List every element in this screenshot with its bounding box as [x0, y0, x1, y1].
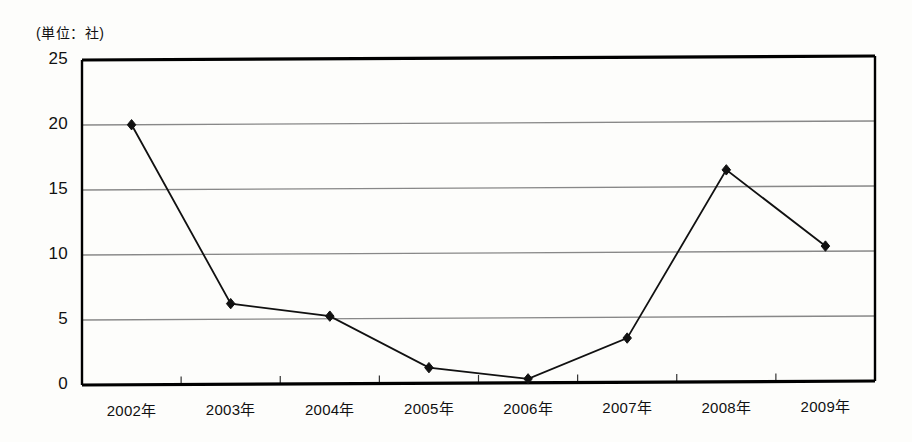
- gridline-5: [82, 316, 875, 320]
- gridline-15: [82, 186, 875, 190]
- x-tick-label: 2005年: [379, 397, 479, 418]
- data-point-marker: [326, 311, 335, 321]
- gridlines-group: [82, 121, 875, 320]
- frame-bottom: [82, 381, 875, 385]
- x-tick-label: 2009年: [775, 395, 875, 416]
- x-tick-label: 2007年: [577, 396, 677, 417]
- plot-frame: [82, 56, 875, 385]
- x-tick-label: 2006年: [478, 397, 578, 418]
- data-point-marker: [425, 362, 434, 372]
- y-tick-label: 0: [26, 374, 68, 394]
- y-tick-label: 15: [26, 179, 68, 199]
- y-tick-label: 25: [26, 49, 68, 69]
- x-tick-label: 2002年: [82, 399, 182, 420]
- line-chart-plot-area: [0, 0, 912, 442]
- y-tick-label: 20: [26, 114, 68, 134]
- y-tick-label: 5: [26, 309, 68, 329]
- gridline-20: [82, 121, 875, 125]
- chart-figure: (単位：社) 0510152025 2002年2003年2004年2005年20…: [0, 0, 912, 442]
- x-tick-label: 2004年: [280, 398, 380, 419]
- data-point-marker: [821, 241, 830, 251]
- frame-top: [82, 56, 875, 60]
- x-tick-label: 2008年: [676, 396, 776, 417]
- y-tick-label: 10: [26, 244, 68, 264]
- x-tick-label: 2003年: [181, 398, 281, 419]
